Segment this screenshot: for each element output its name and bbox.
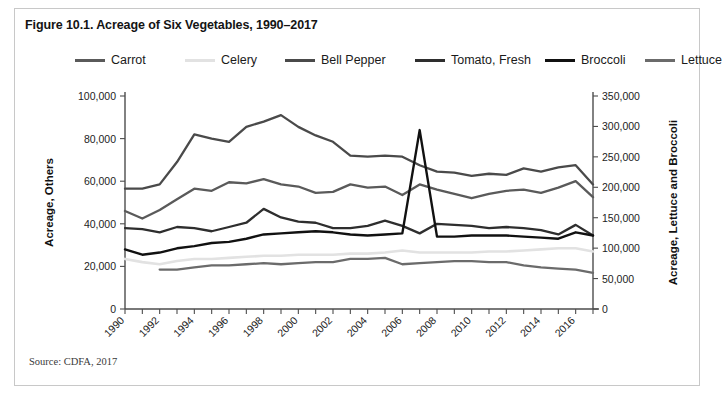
x-tick-label: 2012 [483, 314, 508, 339]
legend-label: Tomato, Fresh [451, 53, 531, 67]
x-tick-label: 2008 [413, 314, 438, 339]
legend-swatch-icon [645, 59, 675, 62]
legend-label: Lettuce [681, 53, 722, 67]
y-tick-label-right: 0 [602, 303, 608, 315]
y-tick-label-right: 150,000 [602, 212, 640, 224]
legend-label: Carrot [111, 53, 146, 67]
y-tick-label-left: 0 [110, 303, 116, 315]
y-tick-label-right: 250,000 [602, 151, 640, 163]
legend-item-celery[interactable]: Celery [185, 49, 257, 71]
y-tick-label-left: 20,000 [84, 260, 116, 272]
y-tick-label-left: 80,000 [84, 133, 116, 145]
line-chart: 020,00040,00060,00080,000100,000050,0001… [15, 69, 701, 369]
x-tick-label: 1990 [101, 314, 126, 339]
series-line-tomato-fresh[interactable] [125, 209, 593, 236]
series-line-lettuce[interactable] [160, 258, 593, 273]
x-tick-label: 1992 [136, 314, 161, 339]
legend-swatch-icon [545, 59, 575, 62]
series-line-celery[interactable] [125, 248, 593, 264]
x-tick-label: 2000 [275, 314, 300, 339]
y-tick-label-right: 350,000 [602, 90, 640, 102]
series-line-carrot[interactable] [125, 179, 593, 218]
y-tick-label-right: 100,000 [602, 242, 640, 254]
y-tick-label-right: 50,000 [602, 273, 634, 285]
legend-item-tomato-fresh[interactable]: Tomato, Fresh [415, 49, 531, 71]
y-tick-label-left: 40,000 [84, 218, 116, 230]
y-axis-title-left: Acreage, Others [43, 158, 55, 247]
legend-swatch-icon [75, 59, 105, 62]
legend-label: Bell Pepper [321, 53, 386, 67]
x-tick-label: 2010 [448, 314, 473, 339]
chart-legend: CarrotCeleryBell PepperTomato, FreshBroc… [45, 49, 685, 71]
x-tick-label: 2016 [552, 314, 577, 339]
page-title: Figure 10.1. Acreage of Six Vegetables, … [25, 18, 318, 32]
legend-swatch-icon [185, 59, 215, 62]
series-line-broccoli[interactable] [125, 130, 593, 255]
x-tick-label: 2002 [309, 314, 334, 339]
y-tick-label-left: 60,000 [84, 175, 116, 187]
source-note: Source: CDFA, 2017 [29, 356, 117, 367]
y-tick-label-right: 200,000 [602, 181, 640, 193]
x-tick-label: 2014 [517, 314, 542, 339]
legend-label: Celery [221, 53, 257, 67]
legend-item-broccoli[interactable]: Broccoli [545, 49, 625, 71]
y-axis-title-right: Acreage, Lettuce and Broccoli [667, 120, 679, 286]
legend-label: Broccoli [581, 53, 625, 67]
legend-swatch-icon [415, 59, 445, 62]
legend-swatch-icon [285, 59, 315, 62]
figure-panel: Figure 10.1. Acreage of Six Vegetables, … [14, 8, 700, 386]
y-tick-label-right: 300,000 [602, 120, 640, 132]
legend-item-bell-pepper[interactable]: Bell Pepper [285, 49, 386, 71]
x-tick-label: 1994 [171, 314, 196, 339]
legend-item-carrot[interactable]: Carrot [75, 49, 146, 71]
y-tick-label-left: 100,000 [78, 90, 116, 102]
x-tick-label: 2004 [344, 314, 369, 339]
series-line-bell-pepper[interactable] [125, 115, 593, 188]
x-tick-label: 1998 [240, 314, 265, 339]
chart-plot-area: 020,00040,00060,00080,000100,000050,0001… [15, 69, 701, 369]
x-tick-label: 1996 [205, 314, 230, 339]
legend-item-lettuce[interactable]: Lettuce [645, 49, 722, 71]
x-tick-label: 2006 [379, 314, 404, 339]
